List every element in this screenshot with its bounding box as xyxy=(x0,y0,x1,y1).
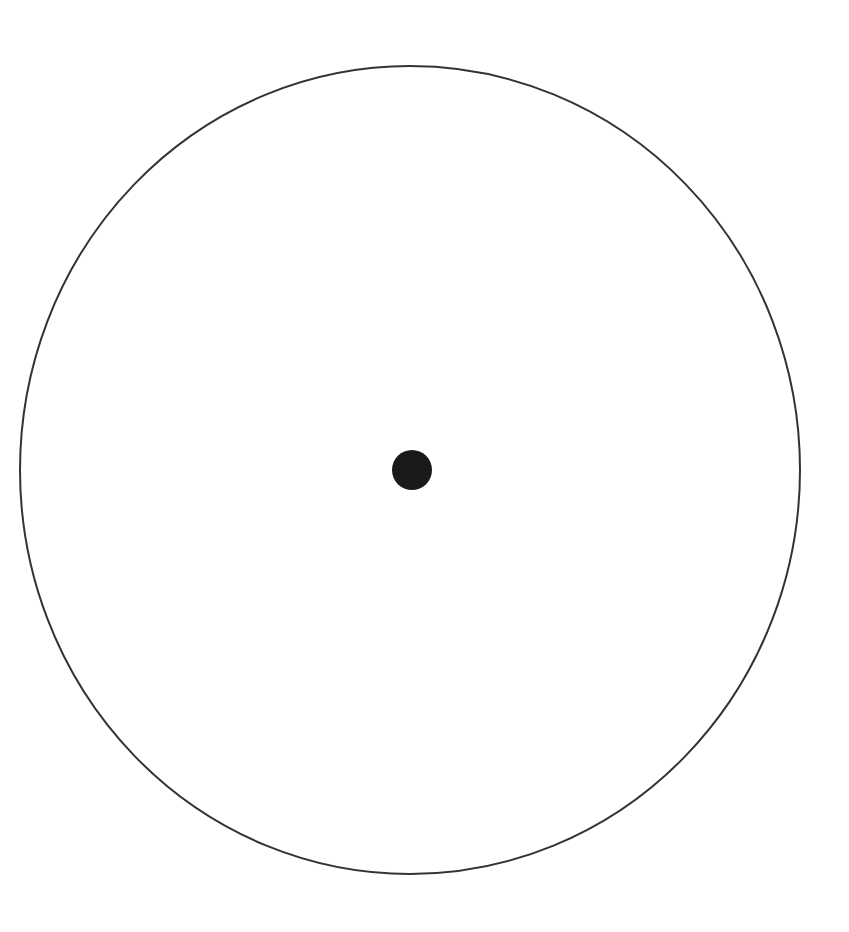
diagram-canvas xyxy=(0,0,849,932)
center-dot xyxy=(392,450,432,490)
